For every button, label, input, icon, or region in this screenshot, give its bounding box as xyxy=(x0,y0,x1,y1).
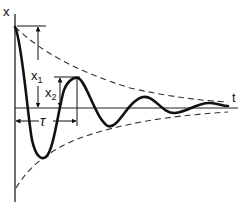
y-axis-label: x xyxy=(3,4,10,19)
t-axis-label: t xyxy=(232,90,236,105)
damped-oscillation-diagram: x t x1 x2 τ xyxy=(0,0,244,206)
x2-label: x2 xyxy=(45,85,57,102)
tau-label: τ xyxy=(40,113,46,129)
